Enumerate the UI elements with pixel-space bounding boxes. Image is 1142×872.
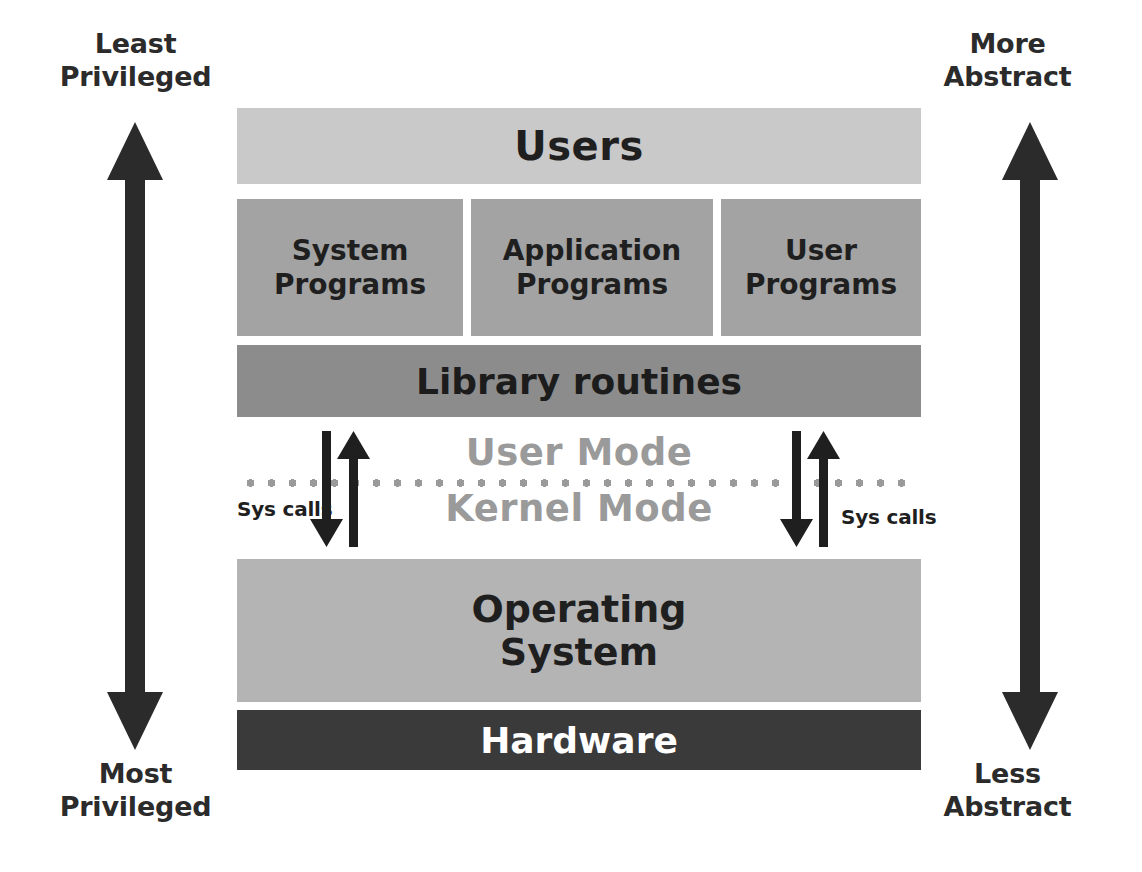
privilege-axis-arrow-icon xyxy=(95,122,175,750)
most-privileged-label: Most Privileged xyxy=(28,758,243,824)
layer-block-users: Users xyxy=(237,108,921,184)
diagram-canvas: Least Privileged Most Privileged More Ab… xyxy=(0,0,1142,872)
less-abstract-label: Less Abstract xyxy=(900,758,1115,824)
sys-calls-right-arrows-icon xyxy=(775,427,841,551)
layer-block-library-routines: Library routines xyxy=(237,345,921,417)
more-abstract-label: More Abstract xyxy=(900,28,1115,94)
layer-block-application-programs: Application Programs xyxy=(471,199,713,336)
abstraction-axis-arrow-icon xyxy=(990,122,1070,750)
sys-calls-right-label: Sys calls xyxy=(841,505,936,529)
layer-block-hardware: Hardware xyxy=(237,710,921,770)
layer-block-operating-system: Operating System xyxy=(237,559,921,702)
layer-block-user-programs: User Programs xyxy=(721,199,921,336)
layer-block-system-programs: System Programs xyxy=(237,199,463,336)
mode-boundary-band: User Mode Kernel Mode Sys calls Sys call… xyxy=(237,425,921,553)
sys-calls-left-arrows-icon xyxy=(305,427,371,551)
least-privileged-label: Least Privileged xyxy=(28,28,243,94)
